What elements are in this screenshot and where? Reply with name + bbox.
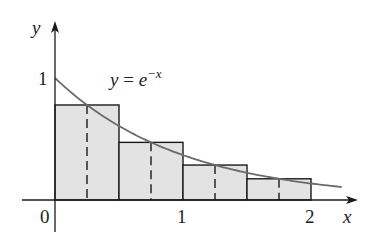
x-tick-0: 0 bbox=[40, 206, 50, 227]
curve-label-exponent: −x bbox=[147, 66, 162, 81]
x-tick-2: 2 bbox=[305, 206, 315, 227]
curve-label: y = e−x bbox=[108, 66, 162, 90]
x-tick-1: 1 bbox=[177, 206, 187, 227]
y-axis-label: y bbox=[30, 17, 41, 38]
y-tick-1: 1 bbox=[38, 68, 48, 89]
midpoint-rule-chart: y x 1 0 1 2 y = e−x bbox=[0, 0, 385, 245]
x-axis-label: x bbox=[342, 206, 352, 227]
midpoint-rectangles bbox=[55, 105, 311, 200]
